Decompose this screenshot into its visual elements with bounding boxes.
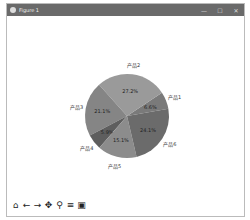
slice-category-label: 产品1 [168, 94, 181, 101]
home-icon[interactable]: ⌂ [11, 200, 20, 210]
slice-percent-label: 21.1% [94, 108, 110, 114]
minimize-button[interactable]: — [196, 7, 212, 14]
slice-percent-label: 6.6% [144, 104, 157, 110]
maximize-button[interactable]: ☐ [212, 7, 228, 14]
title-bar: Figure 1 — ☐ ✕ [7, 4, 244, 16]
slice-percent-label: 15.1% [113, 137, 129, 143]
slice-percent-label: 27.2% [122, 88, 138, 94]
close-button[interactable]: ✕ [228, 7, 244, 14]
save-icon[interactable]: ▣ [77, 200, 86, 210]
back-icon[interactable]: ← [22, 200, 31, 210]
slice-category-label: 产品3 [70, 104, 83, 111]
forward-icon[interactable]: → [33, 200, 42, 210]
figure-window: Figure 1 — ☐ ✕ 6.6%产品127.2%产品221.1%产品35.… [6, 3, 245, 217]
zoom-icon[interactable]: ⚲ [55, 200, 64, 210]
slice-category-label: 产品6 [163, 141, 176, 148]
pan-icon[interactable]: ✥ [44, 200, 53, 210]
slice-category-label: 产品2 [127, 62, 140, 69]
configure-icon[interactable]: ≡ [66, 200, 75, 210]
plot-canvas: 6.6%产品127.2%产品221.1%产品35.9%产品415.1%产品524… [7, 16, 244, 194]
pie-chart: 6.6%产品127.2%产品221.1%产品35.9%产品415.1%产品524… [7, 16, 244, 194]
slice-percent-label: 24.1% [140, 127, 156, 133]
app-icon [10, 7, 16, 13]
slice-category-label: 产品4 [80, 145, 93, 152]
navigation-toolbar: ⌂ ← → ✥ ⚲ ≡ ▣ [7, 194, 244, 216]
window-title: Figure 1 [19, 7, 196, 13]
slice-category-label: 产品5 [108, 163, 121, 170]
